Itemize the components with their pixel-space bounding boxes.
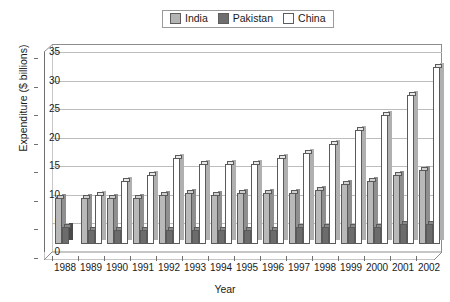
bar-pakistan-1993 — [192, 230, 199, 244]
x-tick-mark — [364, 256, 365, 261]
bar-face — [114, 230, 121, 244]
bar-face — [62, 227, 69, 244]
bar-group — [260, 44, 286, 252]
bar-top — [395, 172, 402, 176]
x-tick-mark — [182, 256, 183, 261]
legend-label-pakistan: Pakistan — [233, 13, 273, 24]
bar-top — [64, 224, 71, 228]
bar-top — [343, 181, 350, 185]
legend-label-india: India — [185, 13, 208, 24]
bar-india-1997 — [289, 193, 296, 244]
bar-face — [199, 164, 206, 244]
bar-top — [369, 178, 376, 182]
bar-china-1991 — [147, 175, 154, 244]
bar-china-2000 — [381, 115, 388, 244]
x-tick-label: 1997 — [286, 262, 312, 273]
pakistan-swatch-icon — [218, 13, 229, 24]
y-tick-mark — [34, 229, 38, 230]
x-tick-label: 1988 — [52, 262, 78, 273]
bar-face — [426, 224, 433, 244]
x-tick-label: 1990 — [104, 262, 130, 273]
legend-item-india: India — [170, 13, 208, 24]
bar-face — [289, 193, 296, 244]
bar-india-1989 — [81, 198, 88, 244]
china-swatch-icon — [283, 13, 294, 24]
y-tick-mark — [34, 172, 38, 173]
bar-face — [277, 158, 284, 244]
bar-series-container — [52, 44, 442, 252]
bar-face — [374, 227, 381, 244]
chart-legend: India Pakistan China — [162, 10, 334, 28]
bar-face — [55, 198, 62, 244]
bar-pakistan-1991 — [140, 230, 147, 244]
bar-face — [95, 195, 102, 244]
bar-face — [419, 170, 426, 244]
x-tick-mark — [286, 256, 287, 261]
bar-group — [390, 44, 416, 252]
y-tick-mark — [34, 258, 38, 259]
x-axis-ticks: 1988198919901991199219931994199519961997… — [44, 262, 450, 278]
bar-face — [166, 230, 173, 244]
x-tick-mark — [338, 256, 339, 261]
bar-india-1996 — [263, 193, 270, 244]
x-tick-label: 1999 — [338, 262, 364, 273]
bar-china-1999 — [355, 130, 362, 244]
bar-top — [187, 190, 194, 194]
x-tick-label: 1998 — [312, 262, 338, 273]
x-axis-title: Year — [0, 283, 450, 295]
bar-pakistan-1994 — [218, 230, 225, 244]
bar-face — [159, 195, 166, 244]
bar-pakistan-2000 — [374, 227, 381, 244]
bar-india-1995 — [237, 193, 244, 244]
plot-area: 05101520253035 — [44, 44, 442, 260]
bar-group — [104, 44, 130, 252]
bar-face — [296, 227, 303, 244]
bar-china-2002 — [433, 67, 440, 244]
bar-india-2001 — [393, 175, 400, 244]
bar-face — [185, 193, 192, 244]
bar-china-1992 — [173, 158, 180, 244]
bar-face — [407, 95, 414, 244]
bar-india-1988 — [55, 198, 62, 244]
bar-face — [355, 130, 362, 244]
bar-group — [208, 44, 234, 252]
bar-china-1989 — [95, 195, 102, 244]
bar-face — [433, 67, 440, 244]
bar-face — [315, 190, 322, 244]
bar-top — [213, 192, 220, 196]
bar-top — [291, 190, 298, 194]
bar-china-1998 — [329, 144, 336, 244]
bar-pakistan-2001 — [400, 224, 407, 244]
bar-top — [265, 190, 272, 194]
bar-pakistan-1989 — [88, 230, 95, 244]
bar-face — [322, 227, 329, 244]
bar-india-1999 — [341, 184, 348, 244]
x-tick-mark — [416, 256, 417, 261]
bar-india-1994 — [211, 195, 218, 244]
y-tick-mark — [34, 87, 38, 88]
bar-face — [147, 175, 154, 244]
bar-face — [237, 193, 244, 244]
bar-pakistan-1998 — [322, 227, 329, 244]
bar-china-2001 — [407, 95, 414, 244]
x-tick-mark — [104, 256, 105, 261]
bar-china-1993 — [199, 164, 206, 244]
bar-side — [440, 63, 444, 240]
bar-pakistan-2002 — [426, 224, 433, 244]
bar-pakistan-1999 — [348, 227, 355, 244]
x-tick-label: 1994 — [208, 262, 234, 273]
bar-face — [192, 230, 199, 244]
bar-face — [140, 230, 147, 244]
x-tick-label: 1989 — [78, 262, 104, 273]
bar-group — [78, 44, 104, 252]
bar-group — [182, 44, 208, 252]
bar-face — [251, 164, 258, 244]
bar-india-1993 — [185, 193, 192, 244]
x-tick-mark — [260, 256, 261, 261]
bar-group — [416, 44, 442, 252]
bar-pakistan-1988 — [62, 227, 69, 244]
y-tick-mark — [34, 58, 38, 59]
x-tick-label: 1996 — [260, 262, 286, 273]
bar-top — [83, 195, 90, 199]
bar-group — [234, 44, 260, 252]
